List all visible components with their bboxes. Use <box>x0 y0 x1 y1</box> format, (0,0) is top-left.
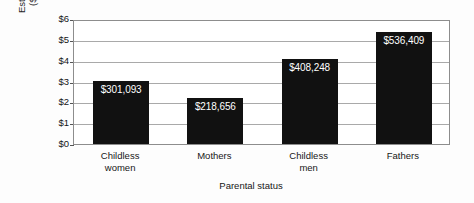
y-tick-label: $3 <box>44 77 69 87</box>
y-tick-label: $6 <box>44 14 69 24</box>
bar-value-label: $218,656 <box>187 101 243 113</box>
bar-value-label: $301,093 <box>93 84 149 96</box>
x-tick-label: Mothers <box>167 150 261 162</box>
plot-area: $301,093$218,656$408,248$536,409 <box>73 20 450 145</box>
bar-chart: Estimated pay ($000,000) $0$1$2$3$4$5$6 … <box>0 0 474 203</box>
y-tick-label: $1 <box>44 118 69 128</box>
bar[interactable]: $408,248 <box>282 59 338 144</box>
bar[interactable]: $218,656 <box>187 98 243 144</box>
bar[interactable]: $536,409 <box>376 32 432 144</box>
y-tick-label: $4 <box>44 56 69 66</box>
y-axis-title-line2: ($000,000) <box>27 0 38 6</box>
x-tick-label: Childless men <box>262 150 356 174</box>
y-axis-title-line1: Estimated pay <box>16 0 27 13</box>
x-axis-title-text: Parental status <box>219 180 282 191</box>
bar[interactable]: $301,093 <box>93 81 149 144</box>
y-tick-mark <box>70 145 74 146</box>
x-tick-label: Childless women <box>73 150 167 174</box>
y-axis-title: Estimated pay ($000,000) <box>14 0 40 46</box>
y-tick-label: $2 <box>44 97 69 107</box>
x-axis-title: Parental status <box>0 180 474 191</box>
y-tick-label: $0 <box>44 139 69 149</box>
bar-value-label: $408,248 <box>282 62 338 74</box>
y-tick-label: $5 <box>44 35 69 45</box>
bar-value-label: $536,409 <box>376 35 432 47</box>
x-tick-label: Fathers <box>356 150 450 162</box>
